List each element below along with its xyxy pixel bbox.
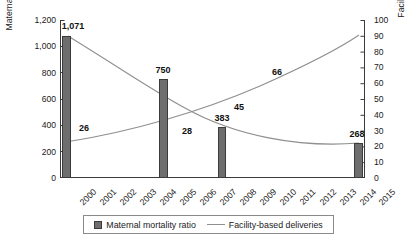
y-right-tick-20: 20 [374,142,384,151]
x-tick-2004: 2004 [158,187,178,207]
y-left-tick-600: 600 [42,95,56,104]
y-left-tick-200: 200 [42,148,56,157]
plot-area: 1,071 750 383 268 26 28 45 66 [60,20,365,178]
line-label-45: 45 [234,103,244,112]
plot-lines [60,20,365,178]
y-right-tick-40: 40 [374,111,384,120]
x-tick-2011: 2011 [298,187,317,206]
y-right-tick-50: 50 [374,95,384,104]
bar-2005 [159,79,168,178]
x-tick-2003: 2003 [138,187,158,207]
y-right-tick-0: 0 [374,174,379,183]
legend-label-facility-based-deliveries: Facility-based deliveries [229,220,323,230]
x-tick-2001: 2001 [98,187,118,207]
bar-2015 [354,143,363,178]
line-swatch-icon [207,224,225,225]
x-tick-2002: 2002 [118,187,138,207]
y-left-tick-800: 800 [42,69,56,78]
y-left-tick-400: 400 [42,121,56,130]
y-left-tick-0: 0 [51,174,56,183]
x-tick-2014: 2014 [358,187,378,207]
y-right-tick-60: 60 [374,79,384,88]
x-tick-2005: 2005 [178,187,198,207]
facility-deliveries-line [66,35,359,142]
x-tick-2000: 2000 [78,187,98,207]
bar-label-2015: 268 [343,130,371,139]
bar-2008 [218,127,226,178]
x-tick-2012: 2012 [318,187,338,207]
x-tick-2013: 2013 [338,187,358,207]
x-tick-2010: 2010 [278,187,298,207]
y-right-tick-90: 90 [374,32,384,41]
y-right-tick-100: 100 [374,16,388,25]
y-left-tick-1000: 1,000 [34,42,56,51]
y-left-tick-1200: 1,200 [34,16,56,25]
line-label-26: 26 [79,124,89,133]
x-tick-2006: 2006 [198,187,218,207]
legend-entry-facility-based-deliveries: Facility-based deliveries [207,220,323,230]
y-right-tick-70: 70 [374,63,384,72]
chart-legend: Maternal mortality ratio Facility-based … [83,215,334,234]
x-tick-2009: 2009 [258,187,278,207]
legend-entry-maternal-mortality-ratio: Maternal mortality ratio [94,220,195,230]
y-axis-right-title: Facility-based deliveries (%) [396,0,406,40]
line-label-28: 28 [182,127,192,136]
bar-label-2008: 383 [208,114,236,123]
bar-2000 [62,36,71,178]
bar-label-2000: 1,071 [57,22,89,31]
y-axis-left-title: Maternal mortality ratio (per 100,000) [4,0,14,38]
chart-figure: Maternal mortality ratio (per 100,000) F… [0,0,417,246]
mmr-trend-line [68,36,359,144]
x-tick-2015: 2015 [377,187,397,207]
x-tick-2007: 2007 [218,187,238,207]
legend-label-maternal-mortality-ratio: Maternal mortality ratio [106,220,195,230]
line-label-66: 66 [272,68,282,77]
bar-swatch-icon [94,221,102,229]
y-right-tick-80: 80 [374,48,384,57]
bar-label-2005: 750 [149,66,177,75]
y-right-tick-30: 30 [374,127,384,136]
x-tick-2008: 2008 [238,187,258,207]
y-right-tick-10: 10 [374,158,384,167]
